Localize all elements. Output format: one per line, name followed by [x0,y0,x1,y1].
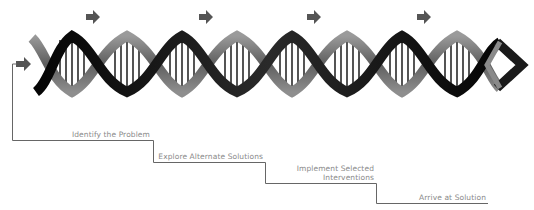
step-label-implement-interventions: Implement Selected Interventions [297,165,374,182]
step-label-identify-problem: Identify the Problem [72,131,150,140]
black-strand [36,36,500,92]
top-arrows [86,10,431,24]
entry-arrow-icon [16,57,31,71]
dna-process-diagram: Identify the Problem Explore Alternate S… [0,0,534,210]
step-label-implement-line2: Interventions [297,174,374,183]
right-arrow-icon [199,10,213,24]
dna-helix-graphic [0,0,534,210]
step-label-explore-solutions: Explore Alternate Solutions [158,153,263,162]
right-arrow-icon [307,10,321,24]
right-arrow-icon [417,10,431,24]
right-arrow-icon [86,10,100,24]
step-label-arrive-solution: Arrive at Solution [419,194,486,203]
